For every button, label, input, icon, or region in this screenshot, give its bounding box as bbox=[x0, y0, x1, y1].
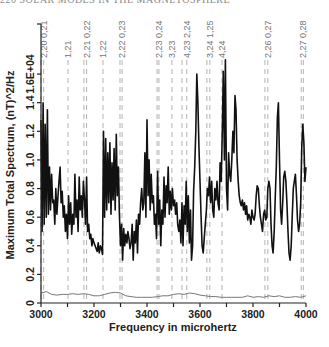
mode-marker-label: 2,27 0,28 bbox=[298, 20, 308, 58]
mode-marker-label: 2,22 0,23 bbox=[117, 20, 127, 58]
y-tick-label: 0.6 bbox=[24, 210, 36, 225]
mode-marker-label: 3,24 1,25 bbox=[205, 20, 215, 58]
baseline-line bbox=[41, 292, 306, 298]
x-tick-label: 4000 bbox=[294, 308, 318, 320]
mode-marker-label: 1,22 bbox=[98, 40, 108, 58]
mode-marker-label: 2,20 0,21 bbox=[39, 20, 49, 58]
mode-marker-label: 1,21 bbox=[63, 40, 73, 58]
mode-marker-label: 2,23 0,24 bbox=[154, 20, 164, 58]
x-tick-label: 3200 bbox=[82, 308, 106, 320]
y-tick-label: 1.0 bbox=[24, 152, 36, 167]
y-tick-label: 0.4 bbox=[24, 238, 36, 253]
spectrum-chart: 2,20 0,211,212,21 0,221,222,22 0,232,23 … bbox=[0, 0, 329, 347]
x-tick-label: 3800 bbox=[241, 308, 265, 320]
y-tick-label: 1.6E+04 bbox=[24, 54, 36, 94]
x-tick-label: 3600 bbox=[188, 308, 212, 320]
y-tick-label: 0.8 bbox=[24, 181, 36, 196]
spectrum-line bbox=[41, 60, 306, 260]
mode-marker-labels: 2,20 0,211,212,21 0,221,222,22 0,232,23 … bbox=[39, 20, 309, 58]
y-axis-label: Maximum Total Spectrum, (nT)^2/Hz bbox=[4, 70, 16, 259]
y-tick-label: 1.4 bbox=[24, 95, 36, 110]
data-series bbox=[41, 60, 306, 297]
mode-marker-label: 3,23 bbox=[167, 40, 177, 58]
mode-marker-label: 2,26 0,27 bbox=[263, 20, 273, 58]
y-tick-label: 0.2 bbox=[24, 267, 36, 282]
y-tick-label: 0 bbox=[24, 300, 36, 306]
x-tick-label: 3000 bbox=[29, 308, 53, 320]
mode-marker-label: 2,21 0,22 bbox=[82, 20, 92, 58]
x-tick-label: 3400 bbox=[135, 308, 159, 320]
mode-marker-label: 4,23 2,24 bbox=[182, 20, 192, 58]
x-axis-label: Frequency in microhertz bbox=[109, 321, 237, 333]
mode-marker-lines bbox=[41, 60, 303, 303]
y-tick-label: 1.2 bbox=[24, 124, 36, 139]
mode-marker-label: 4,24 bbox=[217, 40, 227, 58]
